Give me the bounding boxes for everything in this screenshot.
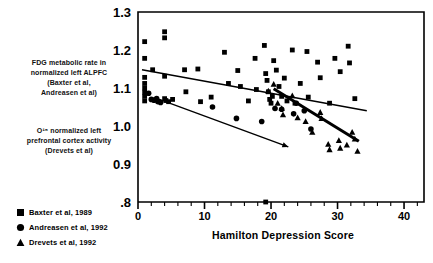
y-tick-label: 1.3: [113, 5, 131, 20]
legend-item-drevets: Drevets et al, 1992: [16, 235, 156, 250]
data-point-circle: [291, 111, 297, 117]
data-point-square: [142, 86, 147, 91]
legend-item-andreasen: Andreasen et al, 1992: [16, 220, 156, 235]
legend-label-drevets: Drevets et al, 1992: [29, 238, 96, 247]
data-point-triangle: [349, 129, 355, 135]
data-point-square: [318, 75, 323, 80]
data-point-square: [254, 87, 259, 92]
data-point-square: [346, 44, 351, 49]
data-point-triangle: [303, 118, 309, 124]
data-point-triangle: [326, 146, 332, 152]
data-point-square: [332, 56, 337, 61]
scatter-plot-figure: FDG metabolic rate in normalized left AL…: [0, 0, 433, 263]
x-axis-label: Hamilton Depression Score: [138, 229, 428, 241]
legend-label-andreasen: Andreasen et al, 1992: [29, 223, 108, 232]
trendline-arrowhead: [282, 142, 288, 147]
data-point-circle: [293, 100, 299, 106]
tick-labels-group: 010203040.80.91.01.11.21.3: [113, 5, 410, 223]
data-point-square: [226, 81, 231, 86]
data-point-triangle: [336, 137, 342, 143]
x-tick-label: 40: [398, 210, 410, 222]
data-point-square: [269, 101, 274, 106]
data-point-square: [150, 67, 155, 72]
y-tick-label: 1.1: [113, 81, 131, 96]
data-point-square: [195, 67, 200, 72]
x-tick-label: 30: [331, 210, 343, 222]
data-point-square: [352, 96, 357, 101]
data-point-square: [285, 99, 290, 104]
data-point-square: [209, 95, 214, 100]
data-point-triangle: [354, 148, 360, 154]
x-tick-label: 10: [198, 210, 210, 222]
data-point-square: [170, 97, 175, 102]
legend-label-baxter: Baxter et al, 1989: [29, 208, 92, 217]
data-point-square: [263, 71, 268, 76]
y-tick-label: 1.0: [113, 119, 131, 134]
data-point-square: [315, 60, 320, 65]
data-point-square: [183, 89, 188, 94]
data-point-square: [142, 81, 147, 86]
data-point-square: [253, 56, 258, 61]
data-point-square: [279, 94, 284, 99]
data-point-square: [142, 75, 147, 80]
data-point-triangle: [337, 145, 343, 151]
data-point-square: [298, 81, 303, 86]
data-point-triangle: [344, 142, 350, 148]
data-point-circle: [272, 106, 278, 112]
data-point-square: [142, 99, 147, 104]
data-point-square: [338, 69, 343, 74]
data-point-square: [162, 29, 167, 34]
data-point-square: [222, 50, 227, 55]
trendline: [274, 89, 359, 141]
data-point-square: [198, 99, 203, 104]
y-tick-label: 1.2: [113, 43, 131, 58]
data-point-triangle: [325, 141, 331, 147]
data-point-square: [347, 61, 352, 66]
square-marker-icon: [16, 208, 29, 217]
data-point-triangle: [280, 111, 286, 117]
data-point-square: [142, 56, 147, 61]
triangle-marker-icon: [16, 238, 29, 247]
data-point-circle: [234, 116, 240, 122]
data-point-square: [290, 48, 295, 53]
data-points-group: [142, 29, 360, 204]
data-point-square: [263, 200, 268, 205]
data-point-square: [142, 39, 147, 44]
trendlines-group: [142, 70, 367, 148]
data-point-square: [182, 67, 187, 72]
data-point-triangle: [275, 100, 281, 106]
data-point-triangle: [317, 109, 323, 115]
data-point-circle: [158, 100, 164, 106]
legend-item-baxter: Baxter et al, 1989: [16, 205, 156, 220]
trendline: [155, 98, 288, 147]
data-point-square: [238, 84, 243, 89]
data-point-square: [306, 95, 311, 100]
data-point-circle: [259, 119, 265, 125]
data-point-circle: [210, 104, 216, 110]
data-point-circle: [146, 91, 152, 97]
x-tick-label: 20: [265, 210, 277, 222]
chart-legend: Baxter et al, 1989 Andreasen et al, 1992…: [16, 205, 156, 250]
data-point-square: [305, 49, 310, 54]
data-point-square: [274, 68, 279, 73]
data-point-square: [277, 84, 282, 89]
data-point-square: [162, 35, 167, 40]
data-point-square: [262, 43, 267, 48]
data-point-square: [271, 58, 276, 63]
data-point-circle: [301, 108, 307, 114]
data-point-square: [270, 94, 275, 99]
circle-marker-icon: [16, 223, 29, 232]
data-point-square: [162, 74, 167, 79]
data-point-square: [265, 78, 270, 83]
data-point-square: [235, 68, 240, 73]
data-point-triangle: [271, 81, 277, 87]
data-point-square: [282, 76, 287, 81]
data-point-triangle: [289, 92, 295, 98]
data-point-square: [327, 101, 332, 106]
data-point-square: [246, 99, 251, 104]
y-tick-label: 0.9: [113, 157, 131, 172]
